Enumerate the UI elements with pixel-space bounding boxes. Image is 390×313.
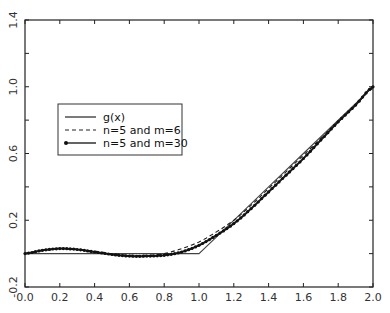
dot-marker xyxy=(62,247,65,250)
x-tick-label: 1.2 xyxy=(225,291,243,304)
dot-marker xyxy=(135,255,138,258)
dot-marker xyxy=(83,249,86,252)
dot-marker xyxy=(225,227,228,230)
x-axis-tick-labels: 0.00.20.40.60.81.01.21.41.61.82.0 xyxy=(16,291,382,304)
dot-marker xyxy=(194,245,197,248)
x-tick-label: 1.0 xyxy=(190,291,208,304)
dot-marker xyxy=(117,254,120,257)
dot-marker xyxy=(37,249,40,252)
dot-marker xyxy=(121,254,124,257)
dot-marker xyxy=(277,180,280,183)
dot-marker xyxy=(114,253,117,256)
line-chart: 0.00.20.40.60.81.01.21.41.61.82.0 -0.20.… xyxy=(0,0,390,313)
dot-marker xyxy=(264,194,267,197)
dot-marker xyxy=(347,110,350,113)
x-tick-label: 2.0 xyxy=(364,291,382,304)
x-tick-label: 1.6 xyxy=(295,291,313,304)
dot-marker xyxy=(79,248,82,251)
dot-marker xyxy=(215,234,218,237)
dot-marker xyxy=(30,251,33,254)
dot-marker xyxy=(371,85,374,88)
dot-marker xyxy=(156,254,159,257)
dot-marker xyxy=(284,174,287,177)
dot-marker xyxy=(368,88,371,91)
dot-marker xyxy=(211,236,214,239)
dot-marker xyxy=(267,190,270,193)
dot-marker xyxy=(44,248,47,251)
dot-marker xyxy=(187,248,190,251)
dot-marker xyxy=(90,250,93,253)
dot-marker xyxy=(316,142,319,145)
dot-marker xyxy=(55,247,58,250)
legend-label-m6: n=5 and m=6 xyxy=(103,124,181,137)
dot-marker xyxy=(218,232,221,235)
dot-marker xyxy=(222,229,225,232)
dot-marker xyxy=(236,219,239,222)
dot-marker xyxy=(312,146,315,149)
dot-marker xyxy=(149,255,152,258)
dot-marker xyxy=(159,254,162,257)
legend: g(x) n=5 and m=6 n=5 and m=30 xyxy=(58,104,188,155)
legend-label-gx: g(x) xyxy=(103,111,125,124)
dot-marker xyxy=(232,222,235,225)
dot-marker xyxy=(152,254,155,257)
dot-marker xyxy=(302,157,305,160)
dot-marker xyxy=(326,131,329,134)
legend-dot-marker-icon xyxy=(64,141,68,145)
dot-marker xyxy=(358,100,361,103)
dot-marker xyxy=(110,253,113,256)
dot-marker xyxy=(201,242,204,245)
dot-marker xyxy=(204,240,207,243)
y-tick-label: 1.0 xyxy=(7,78,20,96)
dot-marker xyxy=(246,210,249,213)
dot-marker xyxy=(138,255,141,258)
dot-marker xyxy=(250,207,253,210)
y-tick-label: 0.2 xyxy=(7,212,20,230)
dot-marker xyxy=(190,247,193,250)
legend-label-m30: n=5 and m=30 xyxy=(103,137,188,150)
dot-marker xyxy=(103,252,106,255)
dot-marker xyxy=(319,139,322,142)
dot-marker xyxy=(180,250,183,253)
dot-marker xyxy=(170,253,173,256)
dot-marker xyxy=(65,247,68,250)
dot-marker xyxy=(51,247,54,250)
dot-marker xyxy=(41,249,44,252)
dot-marker xyxy=(281,177,284,180)
dot-marker xyxy=(197,244,200,247)
dot-marker xyxy=(330,127,333,130)
dot-marker xyxy=(271,187,274,190)
dot-marker xyxy=(340,117,343,120)
y-tick-label: 1.4 xyxy=(7,11,20,29)
dot-marker xyxy=(128,255,131,258)
dot-marker xyxy=(274,184,277,187)
dot-marker xyxy=(291,167,294,170)
dot-marker xyxy=(107,252,110,255)
dot-marker xyxy=(69,247,72,250)
dot-marker xyxy=(145,255,148,258)
dot-marker xyxy=(124,254,127,257)
dot-marker xyxy=(100,251,103,254)
dot-marker xyxy=(142,255,145,258)
dot-marker xyxy=(86,249,89,252)
dot-marker xyxy=(239,216,242,219)
dot-marker xyxy=(337,120,340,123)
dot-marker xyxy=(351,107,354,110)
dot-marker xyxy=(93,250,96,253)
dot-marker xyxy=(243,213,246,216)
dot-marker xyxy=(229,225,232,228)
dot-marker xyxy=(344,114,347,117)
dot-marker xyxy=(260,197,263,200)
x-tick-label: 1.8 xyxy=(329,291,347,304)
dot-marker xyxy=(166,253,169,256)
dot-marker xyxy=(364,91,367,94)
dot-marker xyxy=(173,252,176,255)
dot-marker xyxy=(58,247,61,250)
dot-marker xyxy=(354,104,357,107)
dot-marker xyxy=(48,248,51,251)
dot-marker xyxy=(163,254,166,257)
dot-marker xyxy=(361,95,364,98)
dot-marker xyxy=(34,250,37,253)
dot-marker xyxy=(184,249,187,252)
dot-marker xyxy=(253,204,256,207)
